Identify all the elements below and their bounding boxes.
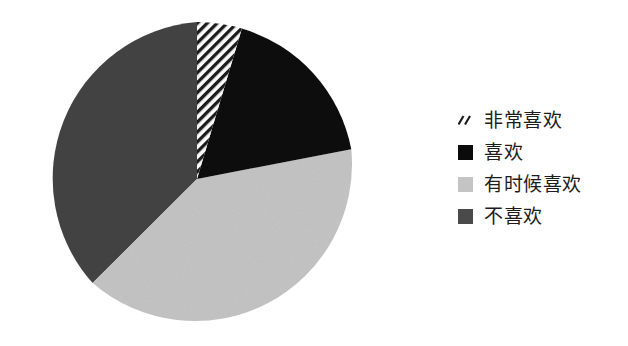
legend-item-xihuan: 喜欢 [458,136,623,168]
legend-label-buxihuan: 不喜欢 [484,207,543,226]
pie-chart-svg [28,12,368,346]
legend-item-buxihuan: 不喜欢 [458,200,623,232]
legend-label-xihuan: 喜欢 [484,143,523,162]
chart-legend: 非常喜欢 喜欢 有时候喜欢 不喜欢 [458,104,623,232]
legend-item-youshihouxihuan: 有时候喜欢 [458,168,623,200]
solid-swatch-icon-dark-gray [458,209,473,224]
pie-chart [28,12,368,346]
legend-label-feichangxihuan: 非常喜欢 [484,111,562,130]
solid-swatch-icon-light-gray [458,177,473,192]
pie-chart-figure: 非常喜欢 喜欢 有时候喜欢 不喜欢 [0,0,628,346]
legend-item-feichangxihuan: 非常喜欢 [458,104,623,136]
legend-label-youshihouxihuan: 有时候喜欢 [484,175,582,194]
solid-swatch-icon-black [458,145,473,160]
hatch-swatch-icon [458,113,473,128]
